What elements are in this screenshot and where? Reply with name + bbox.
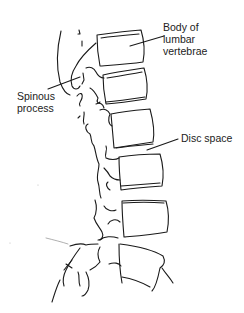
vertebra-l1 — [97, 30, 144, 66]
leader-line-vertebrae-body — [130, 36, 164, 46]
vertebra-l4 — [119, 154, 163, 190]
lumbar-spine-diagram: Body of lumbar vertebrae Spinous process… — [0, 0, 244, 313]
vertebra-l5 — [122, 200, 168, 237]
label-disc-space: Disc space — [181, 132, 232, 144]
label-body-of-lumbar-vertebrae: Body of lumbar vertebrae — [163, 21, 207, 57]
sacrum — [109, 244, 173, 291]
pelvis-outline — [52, 244, 100, 302]
spine-line-drawing — [0, 0, 244, 313]
label-spinous-process: Spinous process — [17, 90, 55, 114]
vertebra-l3 — [111, 109, 154, 148]
vertebra-l2 — [103, 68, 147, 104]
leader-line-spinous-process — [48, 77, 80, 89]
